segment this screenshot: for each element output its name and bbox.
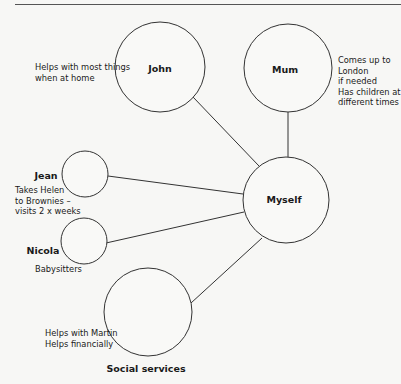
node-social-label: Social services xyxy=(106,363,185,374)
node-john-label: John xyxy=(148,63,172,74)
node-myself-label: Myself xyxy=(266,194,301,205)
node-nicola-circle xyxy=(61,218,107,264)
node-nicola-label: Nicola xyxy=(26,245,59,256)
node-mum-label: Mum xyxy=(272,64,298,75)
edge-john-myself xyxy=(193,97,259,166)
note-nicola: Babysitters xyxy=(35,264,82,275)
edge-social-myself xyxy=(191,238,262,303)
note-jean: Takes Helen to Brownies – visits 2 x wee… xyxy=(15,185,81,217)
note-mum: Comes up to London if needed Has childre… xyxy=(338,55,401,108)
edge-nicola-myself xyxy=(106,212,244,243)
note-john: Helps with most things when at home xyxy=(35,62,130,83)
node-jean-label: Jean xyxy=(34,170,57,181)
note-social: Helps with Martin Helps financially xyxy=(45,328,118,349)
edge-jean-myself xyxy=(108,176,243,194)
